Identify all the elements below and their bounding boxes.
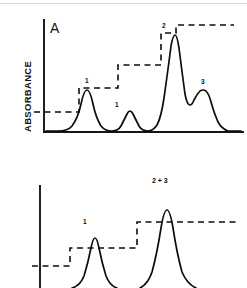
panel-letter-a: A	[50, 20, 59, 36]
panel-a: ABSORBANCE A 1 1 2 3	[0, 8, 247, 143]
panel-a-gradient-profile	[34, 25, 234, 112]
panel-a-peak-label-1a: 1	[85, 77, 89, 84]
panel-b: ABSORBANCE B 1 2 + 3	[0, 168, 247, 288]
panel-a-peak-label-2: 2	[162, 22, 166, 29]
panel-a-trace	[46, 35, 241, 131]
panel-b-plot	[0, 168, 247, 288]
y-axis-label-panel-a: ABSORBANCE	[22, 61, 33, 132]
panel-b-gradient-profile	[32, 222, 239, 266]
panel-a-peak-label-3: 3	[201, 78, 205, 85]
chromatogram-figure: ABSORBANCE A 1 1 2 3 ABSORBANCE B	[0, 0, 247, 288]
panel-b-peak-label-1: 1	[83, 218, 87, 225]
top-divider	[0, 3, 247, 4]
panel-a-peak-label-1b: 1	[115, 101, 119, 108]
panel-b-peak-label-2-3: 2 + 3	[152, 177, 168, 184]
panel-a-plot	[0, 8, 247, 143]
